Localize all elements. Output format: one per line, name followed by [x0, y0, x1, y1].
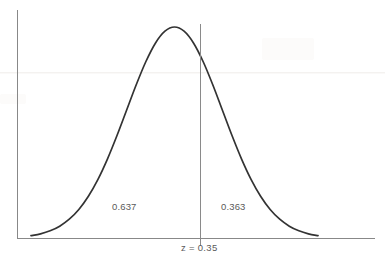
- plot-canvas: [0, 0, 385, 261]
- normal-distribution-figure: 0.637 0.363 z = 0.35: [0, 0, 385, 261]
- normal-curve-path: [31, 27, 318, 236]
- left-area-probability-label: 0.637: [112, 202, 137, 212]
- cutoff-z-label: z = 0.35: [181, 243, 217, 253]
- right-area-probability-label: 0.363: [221, 202, 246, 212]
